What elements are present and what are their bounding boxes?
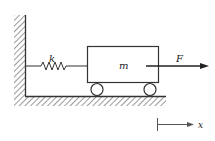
mass-label: m <box>119 60 128 71</box>
x-axis-indicator <box>158 118 195 131</box>
wall <box>14 15 26 97</box>
left-wheel <box>91 84 103 96</box>
spring <box>26 62 88 70</box>
force-label: F <box>175 53 184 64</box>
right-wheel <box>144 84 156 96</box>
x-axis-label: x <box>198 120 203 130</box>
spring-constant-label: k <box>49 53 55 64</box>
mass-spring-diagram: k m F x <box>0 0 215 141</box>
floor <box>14 97 166 107</box>
